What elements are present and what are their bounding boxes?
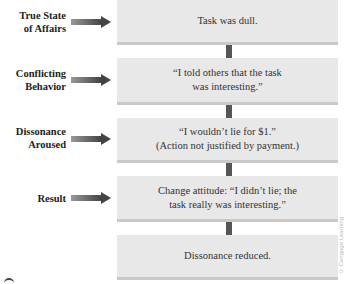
label-line: Result — [0, 192, 66, 205]
label-line: Behavior — [0, 80, 66, 93]
box-text: “I told others that the task — [173, 66, 282, 80]
box-text: “I wouldn’t lie for $1.” — [179, 125, 276, 139]
box-text: Dissonance reduced. — [184, 249, 271, 263]
box-text: Change attitude: “I didn’t lie; the — [158, 184, 297, 198]
copyright-watermark: © Cengage Learning — [338, 215, 352, 275]
box-change-attitude: Change attitude: “I didn’t lie; the task… — [117, 176, 338, 219]
arrow-right-icon — [71, 74, 111, 86]
connector — [226, 163, 232, 176]
label-result: Result — [0, 192, 66, 205]
box-text: task really was interesting.” — [169, 198, 286, 212]
label-dissonance-aroused: Dissonance Aroused — [0, 125, 66, 151]
box-dissonance-reduced: Dissonance reduced. — [117, 235, 338, 277]
arrow-right-icon — [71, 192, 111, 204]
label-line: Aroused — [0, 138, 66, 151]
connector — [226, 45, 232, 58]
label-true-state: True State of Affairs — [0, 9, 66, 35]
box-told-others: “I told others that the task was interes… — [117, 58, 338, 102]
label-line: True State — [0, 9, 66, 22]
box-wouldnt-lie: “I wouldn’t lie for $1.” (Action not jus… — [117, 118, 338, 160]
corner-mark — [4, 278, 14, 284]
label-conflicting-behavior: Conflicting Behavior — [0, 67, 66, 93]
box-text: was interesting.” — [192, 80, 263, 94]
connector — [226, 105, 232, 118]
box-text: Task was dull. — [197, 14, 257, 28]
box-text: (Action not justified by payment.) — [156, 139, 299, 153]
label-line: Conflicting — [0, 67, 66, 80]
connector — [226, 222, 232, 235]
box-task-dull: Task was dull. — [117, 0, 338, 42]
arrow-right-icon — [71, 133, 111, 145]
label-line: Dissonance — [0, 125, 66, 138]
arrow-right-icon — [71, 16, 111, 28]
label-line: of Affairs — [0, 22, 66, 35]
